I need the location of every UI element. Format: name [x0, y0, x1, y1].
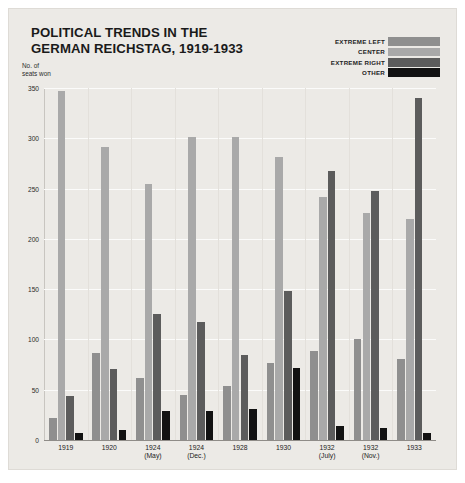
bar: [58, 91, 66, 440]
bar: [110, 369, 118, 440]
bar: [162, 411, 170, 440]
bar: [275, 157, 283, 440]
bar-group: [349, 88, 393, 440]
x-axis-tick-label-year: 1924: [175, 444, 219, 452]
bar: [75, 433, 83, 440]
bar: [380, 428, 388, 440]
bar-group: [262, 88, 306, 440]
bar: [415, 98, 423, 440]
bar: [241, 355, 249, 440]
bar-group: [218, 88, 262, 440]
bar: [284, 291, 292, 440]
bar: [249, 409, 257, 440]
x-axis-tick-label-year: 1930: [262, 444, 306, 452]
bar: [336, 426, 344, 440]
bar: [267, 363, 275, 440]
page-title: POLITICAL TRENDS IN THE GERMAN REICHSTAG…: [31, 25, 291, 56]
bar: [145, 184, 153, 440]
bar-group: [44, 88, 88, 440]
y-axis-tick-label: 250: [28, 185, 39, 192]
legend-color-swatch: [388, 48, 440, 57]
y-axis-caption: No. of seats won: [22, 62, 51, 78]
y-axis-tick-label: 300: [28, 135, 39, 142]
legend-item-label: EXTREME LEFT: [335, 38, 388, 45]
x-axis-tick-label-year: 1919: [44, 444, 88, 452]
bar: [319, 197, 327, 440]
legend-item: EXTREME LEFT: [300, 37, 440, 47]
bar: [101, 147, 109, 440]
bar: [136, 378, 144, 440]
legend-item: OTHER: [300, 68, 440, 78]
bar: [180, 395, 188, 440]
bar-group: [392, 88, 436, 440]
legend-item: EXTREME RIGHT: [300, 57, 440, 67]
x-axis-tick-label-year: 1920: [88, 444, 132, 452]
x-axis-tick-label-month: (May): [131, 452, 175, 460]
legend-color-swatch: [388, 58, 440, 67]
bar-group: [88, 88, 132, 440]
bar: [397, 359, 405, 440]
bar: [363, 213, 371, 440]
bar: [310, 351, 318, 441]
plot-area: 050100150200250300350191919201924(May)19…: [44, 88, 436, 440]
bar: [406, 219, 414, 440]
x-axis-line: [44, 440, 436, 441]
x-axis-tick-label-month: (Dec.): [175, 452, 219, 460]
title-line-2: GERMAN REICHSTAG, 1919-1933: [31, 41, 291, 57]
x-axis-tick-label-year: 1924: [131, 444, 175, 452]
legend-item: CENTER: [300, 47, 440, 57]
bar: [354, 339, 362, 440]
x-axis-tick-label-year: 1928: [218, 444, 262, 452]
x-axis-tick-label: 1930: [262, 444, 306, 452]
y-axis-tick-label: 200: [28, 235, 39, 242]
bar: [423, 433, 431, 440]
bar: [232, 137, 240, 440]
y-axis-tick-label: 50: [32, 386, 39, 393]
x-axis-tick-label-month: (July): [305, 452, 349, 460]
bar: [197, 322, 205, 440]
bar: [293, 368, 301, 440]
chart-legend: EXTREME LEFTCENTEREXTREME RIGHTOTHER: [300, 37, 440, 78]
x-axis-tick-label: 1924(May): [131, 444, 175, 461]
bar: [188, 137, 196, 440]
bar: [223, 386, 231, 440]
x-axis-tick-label: 1932(Nov.): [349, 444, 393, 461]
bar: [328, 171, 336, 440]
bar: [153, 314, 161, 440]
chart-figure: POLITICAL TRENDS IN THE GERMAN REICHSTAG…: [0, 0, 465, 483]
x-axis-tick-label: 1919: [44, 444, 88, 452]
x-axis-tick-label-month: (Nov.): [349, 452, 393, 460]
legend-item-label: EXTREME RIGHT: [331, 59, 388, 66]
legend-color-swatch: [388, 68, 440, 77]
y-axis-tick-label: 100: [28, 336, 39, 343]
bar: [206, 411, 214, 440]
y-axis-caption-line-2: seats won: [22, 70, 51, 78]
bar: [119, 430, 127, 440]
y-axis-tick-label: 0: [35, 437, 39, 444]
x-axis-tick-label: 1928: [218, 444, 262, 452]
x-axis-tick-label: 1924(Dec.): [175, 444, 219, 461]
y-axis-caption-line-1: No. of: [22, 62, 51, 70]
bar: [371, 191, 379, 440]
x-axis-tick-label-year: 1932: [349, 444, 393, 452]
legend-item-label: OTHER: [362, 69, 388, 76]
bar-group: [131, 88, 175, 440]
legend-item-label: CENTER: [358, 48, 388, 55]
x-axis-tick-label: 1920: [88, 444, 132, 452]
title-line-1: POLITICAL TRENDS IN THE: [31, 25, 291, 41]
x-axis-tick-label-year: 1932: [305, 444, 349, 452]
bar: [66, 396, 74, 440]
y-axis-tick-label: 350: [28, 85, 39, 92]
bar: [49, 418, 57, 440]
x-axis-tick-label: 1933: [392, 444, 436, 452]
legend-color-swatch: [388, 37, 440, 46]
y-axis-tick-label: 150: [28, 286, 39, 293]
x-axis-tick-label-year: 1933: [392, 444, 436, 452]
x-axis-tick-label: 1932(July): [305, 444, 349, 461]
bar: [92, 353, 100, 440]
bar-group: [175, 88, 219, 440]
bar-group: [305, 88, 349, 440]
